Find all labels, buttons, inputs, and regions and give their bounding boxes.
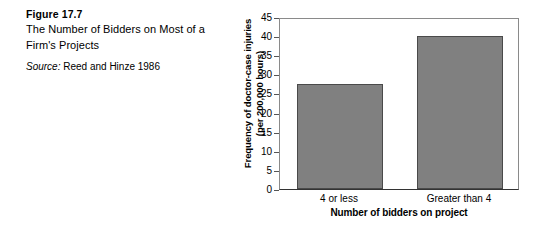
- bar: [297, 84, 383, 189]
- figure-caption-block: Figure 17.7 The Number of Bidders on Mos…: [26, 7, 212, 74]
- source-text: Reed and Hinze 1986: [63, 61, 160, 72]
- bar: [417, 36, 503, 189]
- figure-title: The Number of Bidders on Most of a Firm'…: [26, 22, 212, 53]
- y-axis-title-line1: Frequency of doctor-case injuries: [242, 14, 254, 174]
- y-axis-tick-label: 20: [261, 109, 272, 119]
- y-axis-tick-label: 40: [261, 32, 272, 42]
- y-axis-tick-mark: [274, 190, 279, 191]
- y-axis-tick-label: 45: [261, 13, 272, 23]
- y-axis-tick-label: 30: [261, 70, 272, 80]
- plot-area: [279, 18, 519, 190]
- y-axis-tick-label: 15: [261, 128, 272, 138]
- x-axis-title: Number of bidders on project: [279, 207, 519, 218]
- x-axis-tick-label: Greater than 4: [427, 193, 491, 205]
- y-axis-tick-labels: 454035302520151050: [255, 18, 272, 190]
- figure-number: Figure 17.7: [26, 7, 212, 22]
- y-axis-tick-label: 25: [261, 89, 272, 99]
- y-axis-tick-label: 0: [266, 185, 272, 195]
- x-axis-tick-label: 4 or less: [320, 193, 358, 205]
- y-axis-tick-label: 10: [261, 147, 272, 157]
- source-label: Source:: [26, 61, 60, 72]
- bar-chart: Frequency of doctor-case injuries (per 2…: [219, 10, 529, 223]
- x-axis-tick-labels: 4 or lessGreater than 4: [279, 193, 519, 207]
- bar-series: [280, 19, 518, 189]
- figure-source: Source: Reed and Hinze 1986: [26, 60, 212, 74]
- y-axis-tick-label: 5: [266, 166, 272, 176]
- y-axis-tick-label: 35: [261, 51, 272, 61]
